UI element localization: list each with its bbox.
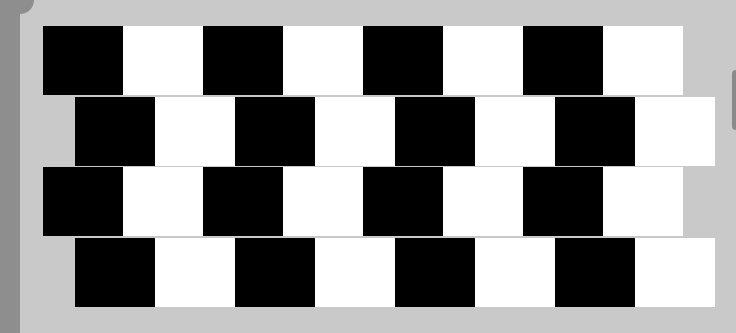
black-tile: [523, 26, 603, 95]
white-tile: [283, 26, 363, 95]
white-tile: [155, 238, 235, 307]
black-tile: [555, 238, 635, 307]
black-tile: [235, 238, 315, 307]
white-tile: [443, 26, 523, 95]
black-tile: [203, 167, 283, 236]
black-tile: [203, 26, 283, 95]
black-tile: [363, 26, 443, 95]
white-tile: [635, 238, 715, 307]
left-edge-shadow: [0, 0, 20, 333]
white-tile: [603, 26, 683, 95]
white-tile: [123, 26, 203, 95]
white-tile: [603, 167, 683, 236]
white-tile: [315, 97, 395, 166]
tile-row-4: [75, 238, 715, 307]
black-tile: [363, 167, 443, 236]
top-left-edge-shadow: [0, 0, 34, 14]
black-tile: [555, 97, 635, 166]
right-edge-shadow: [732, 70, 736, 130]
white-tile: [283, 167, 363, 236]
black-tile: [75, 238, 155, 307]
black-tile: [43, 26, 123, 95]
black-tile: [395, 238, 475, 307]
black-tile: [75, 97, 155, 166]
white-tile: [123, 167, 203, 236]
black-tile: [523, 167, 603, 236]
white-tile: [635, 97, 715, 166]
tile-row-2: [75, 97, 715, 166]
white-tile: [155, 97, 235, 166]
white-tile: [315, 238, 395, 307]
white-tile: [443, 167, 523, 236]
black-tile: [43, 167, 123, 236]
black-tile: [235, 97, 315, 166]
black-tile: [395, 97, 475, 166]
white-tile: [475, 238, 555, 307]
white-tile: [475, 97, 555, 166]
tile-row-1: [43, 26, 683, 95]
tile-row-3: [43, 167, 683, 236]
